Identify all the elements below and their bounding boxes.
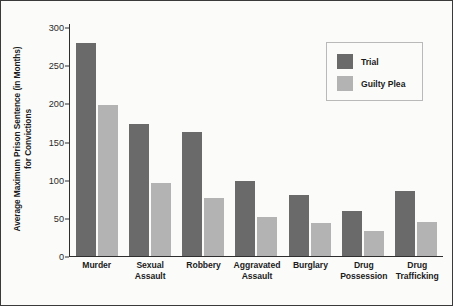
bar[interactable]	[182, 132, 202, 256]
y-axis-tick-label: 200	[49, 99, 64, 109]
y-axis-tick-mark	[65, 218, 69, 219]
bar-group	[123, 28, 176, 256]
bar[interactable]	[364, 231, 384, 255]
x-axis-label: Robbery	[177, 260, 230, 282]
x-axis-label-line: Trafficking	[391, 271, 444, 282]
chart-figure: Average Maximum Prison Sentence (in Mont…	[0, 0, 453, 306]
x-axis-label-line: Drug	[391, 260, 444, 271]
y-axis-title-text: Average Maximum Prison Sentence (in Mont…	[12, 47, 33, 232]
bar[interactable]	[257, 217, 277, 255]
x-axis-label: SexualAssault	[123, 260, 176, 282]
x-axis-label: AggravatedAssault	[230, 260, 283, 282]
bar[interactable]	[98, 105, 118, 255]
x-axis-label-line: Assault	[230, 271, 283, 282]
x-axis-label-line: Drug	[337, 260, 390, 271]
legend-label: Guilty Plea	[361, 79, 405, 89]
legend-item[interactable]: Trial	[337, 54, 422, 69]
y-axis-tick-label: 250	[49, 61, 64, 71]
y-axis-tick-mark	[65, 104, 69, 105]
y-axis-tick-mark	[65, 28, 69, 29]
y-axis-title: Average Maximum Prison Sentence (in Mont…	[5, 19, 39, 259]
bar[interactable]	[76, 43, 96, 255]
x-axis-label: Burglary	[284, 260, 337, 282]
bar[interactable]	[417, 222, 437, 256]
bar-group	[70, 28, 123, 256]
legend-item[interactable]: Guilty Plea	[337, 76, 422, 91]
bar[interactable]	[289, 195, 309, 256]
y-axis-tick-label: 300	[49, 23, 64, 33]
legend-swatch	[337, 54, 353, 69]
bar[interactable]	[151, 183, 171, 256]
bar[interactable]	[342, 211, 362, 255]
x-axis-label-line: Aggravated	[230, 260, 283, 271]
bar[interactable]	[235, 181, 255, 256]
x-axis-label-line: Assault	[123, 271, 176, 282]
y-axis-tick-mark	[65, 66, 69, 67]
y-axis-title-line2: for Convictions	[22, 47, 33, 232]
y-axis-tick-mark	[65, 142, 69, 143]
x-axis-label-line: Possession	[337, 271, 390, 282]
x-axis-label-line: Robbery	[177, 260, 230, 271]
legend-swatch	[337, 76, 353, 91]
bar-group	[230, 28, 283, 256]
y-axis-tick-label: 0	[59, 252, 64, 262]
x-axis-labels: MurderSexualAssaultRobberyAggravatedAssa…	[70, 260, 444, 282]
bar[interactable]	[129, 124, 149, 256]
x-axis-label-line: Sexual	[123, 260, 176, 271]
x-axis-label-line: Murder	[70, 260, 123, 271]
y-axis-tick-label: 150	[49, 138, 64, 148]
x-axis-line	[69, 256, 443, 257]
legend-label: Trial	[361, 57, 379, 67]
y-axis-tick-label: 50	[54, 214, 64, 224]
bar[interactable]	[311, 223, 331, 256]
x-axis-label: DrugTrafficking	[391, 260, 444, 282]
x-axis-label: DrugPossession	[337, 260, 390, 282]
bar[interactable]	[395, 191, 415, 256]
x-axis-label: Murder	[70, 260, 123, 282]
bar-group	[177, 28, 230, 256]
y-axis-tick-mark	[65, 180, 69, 181]
chart-legend: TrialGuilty Plea	[326, 42, 423, 101]
x-axis-label-line: Burglary	[284, 260, 337, 271]
y-axis-tick-mark	[65, 257, 69, 258]
y-axis-tick-label: 100	[49, 176, 64, 186]
y-axis-title-line1: Average Maximum Prison Sentence (in Mont…	[12, 47, 22, 232]
bar[interactable]	[204, 198, 224, 255]
